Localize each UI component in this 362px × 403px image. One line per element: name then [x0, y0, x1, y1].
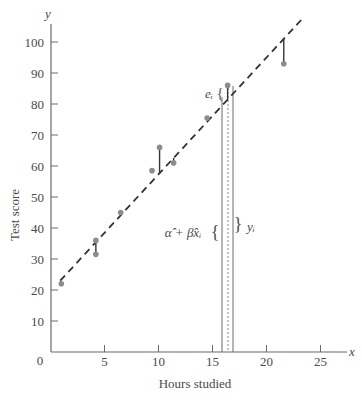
y-axis-title: Test score	[7, 189, 22, 241]
y-tick-label: 50	[31, 190, 44, 205]
axes	[51, 24, 347, 352]
y-axis-letter: y	[43, 6, 51, 21]
x-tick-label: 5	[101, 354, 108, 369]
x-tick-label: 10	[152, 354, 165, 369]
data-point	[93, 238, 99, 244]
data-point	[59, 281, 65, 287]
y-tick-label: 20	[31, 283, 44, 298]
residual-segments	[96, 39, 284, 254]
y-axis-ticks: 102030405060708090100	[25, 35, 59, 329]
observed-value-brace: }	[234, 214, 243, 234]
data-point	[157, 145, 163, 151]
y-tick-label: 90	[31, 66, 44, 81]
highlight-annotation: α̂ + β̂xᵢ { } yᵢ eᵢ {	[165, 86, 255, 352]
y-tick-label: 70	[31, 128, 44, 143]
x-tick-label: 25	[314, 354, 327, 369]
x-axis-ticks: 510152025	[101, 345, 327, 369]
data-point	[171, 160, 177, 166]
data-point	[225, 83, 231, 89]
fitted-value-label: α̂ + β̂xᵢ	[165, 225, 201, 240]
residual-brace: {	[217, 86, 224, 101]
data-points	[59, 61, 287, 287]
y-tick-label: 40	[31, 221, 44, 236]
origin-label: 0	[37, 353, 44, 368]
x-axis-letter: x	[348, 344, 355, 359]
data-point	[281, 61, 287, 67]
x-tick-label: 15	[206, 354, 219, 369]
data-point	[118, 210, 124, 216]
data-point	[93, 252, 99, 258]
data-point	[149, 168, 155, 174]
y-tick-label: 30	[31, 252, 44, 267]
y-tick-label: 80	[31, 97, 44, 112]
x-tick-label: 20	[260, 354, 273, 369]
x-axis-title: Hours studied	[159, 376, 232, 391]
y-tick-label: 60	[31, 159, 44, 174]
regression-chart: 102030405060708090100 510152025 y x 0 Ho…	[0, 0, 362, 403]
fitted-value-brace: {	[211, 222, 220, 242]
observed-value-label: yᵢ	[245, 219, 255, 234]
y-tick-label: 10	[31, 314, 44, 329]
data-point	[204, 115, 210, 121]
y-tick-label: 100	[25, 35, 45, 50]
residual-label: eᵢ	[205, 86, 213, 101]
